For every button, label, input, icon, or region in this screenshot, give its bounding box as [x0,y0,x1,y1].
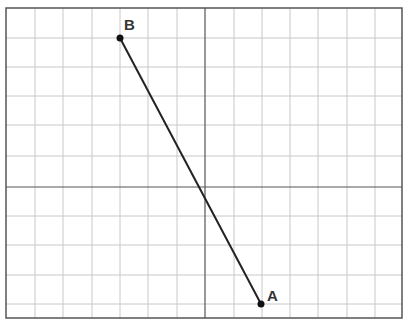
coordinate-grid-diagram: BA [0,0,408,325]
grid-lines [6,8,402,318]
points: BA [117,16,279,308]
point-b-marker [117,35,124,42]
grid-frame [6,8,402,318]
point-b-label: B [124,16,135,33]
point-a-label: A [267,287,278,304]
segment-ab [120,38,261,304]
point-a-marker [258,301,265,308]
